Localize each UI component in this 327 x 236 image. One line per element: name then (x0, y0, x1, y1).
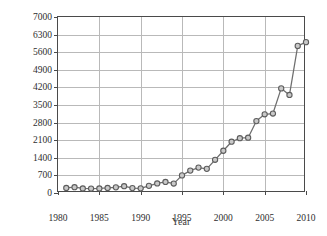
data-point (122, 184, 127, 189)
x-tick-mark (265, 191, 266, 195)
y-tick-label: 700 (8, 170, 52, 180)
x-tick-mark (141, 191, 142, 195)
data-point (113, 185, 118, 190)
x-axis-title: Year (57, 216, 305, 227)
x-tick-mark (182, 191, 183, 195)
data-point (155, 181, 160, 186)
data-point (105, 185, 110, 190)
y-tick-label: 5600 (8, 47, 52, 57)
data-point (138, 186, 143, 191)
y-tick-label: 2100 (8, 135, 52, 145)
y-tick-label: 2800 (8, 118, 52, 128)
data-point (171, 181, 176, 186)
data-point (64, 185, 69, 190)
x-tick-mark (306, 191, 307, 195)
data-point (97, 186, 102, 191)
data-point (221, 148, 226, 153)
data-point (246, 135, 251, 140)
data-point (229, 139, 234, 144)
data-point (72, 185, 77, 190)
data-point (287, 92, 292, 97)
data-point (88, 186, 93, 191)
data-point (270, 111, 275, 116)
y-tick-label: 7000 (8, 12, 52, 22)
y-tick-label: 6300 (8, 30, 52, 40)
citations-markers (64, 40, 309, 192)
data-point (295, 43, 300, 48)
data-series-layer (58, 17, 304, 191)
data-point (188, 168, 193, 173)
y-tick-label: 1400 (8, 153, 52, 163)
citations-chart-figure: # Citations 0700140021002800350042004900… (0, 0, 327, 236)
data-point (204, 166, 209, 171)
data-point (196, 165, 201, 170)
citations-line (66, 42, 306, 188)
y-tick-label: 4900 (8, 65, 52, 75)
data-point (212, 157, 217, 162)
data-point (163, 179, 168, 184)
x-tick-mark (223, 191, 224, 195)
plot-area: 0700140021002800350042004900560063007000… (57, 16, 305, 192)
data-point (262, 112, 267, 117)
x-tick-mark (58, 191, 59, 195)
data-point (303, 40, 308, 45)
y-tick-label: 0 (8, 188, 52, 198)
data-point (146, 183, 151, 188)
y-tick-label: 4200 (8, 82, 52, 92)
data-point (279, 86, 284, 91)
data-point (254, 118, 259, 123)
y-tick-label: 3500 (8, 100, 52, 110)
data-point (80, 186, 85, 191)
data-point (130, 186, 135, 191)
data-point (237, 136, 242, 141)
data-point (179, 173, 184, 178)
